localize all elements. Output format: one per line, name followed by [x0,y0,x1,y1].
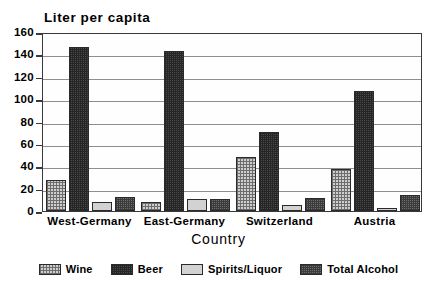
bar [92,202,112,211]
y-axis-tick-label: 140 [0,48,34,60]
y-axis-title: Liter per capita [44,10,150,25]
legend-item: Total Alcohol [300,263,398,275]
bar [210,199,230,211]
legend-label: Total Alcohol [327,263,398,275]
bar [236,157,256,211]
y-axis-tick-label: 100 [0,93,34,105]
legend-label: Spirits/Liquor [208,263,282,275]
x-axis-tick-label: Switzerland [232,215,327,227]
x-axis-tick-label: Austria [327,215,422,227]
bar [69,47,89,211]
bar [354,91,374,211]
bar [331,169,351,212]
bar [377,208,397,211]
y-axis-tick-label: 40 [0,160,34,172]
legend-item: Beer [111,263,163,275]
y-axis-tick-label: 20 [0,183,34,195]
bar [187,199,207,211]
bar-chart-figure: Liter per capita 020406080100120140160 W… [0,0,437,294]
legend-swatch-icon [300,264,322,275]
bar [282,205,302,211]
bar-group [138,34,233,211]
bar-group [233,34,328,211]
bar [259,132,279,211]
legend-swatch-icon [111,264,133,275]
legend-swatch-icon [39,264,61,275]
bar-series-layer [43,34,421,211]
x-axis-tick-label: East-Germany [137,215,232,227]
bar [164,51,184,211]
plot-area [42,33,422,212]
bar [46,180,66,211]
legend-item: Wine [39,263,93,275]
bar [400,195,420,211]
y-axis-tick-label: 60 [0,138,34,150]
chart-legend: WineBeerSpirits/LiquorTotal Alcohol [0,258,437,280]
legend-swatch-icon [181,264,203,275]
x-axis-tick-label: West-Germany [42,215,137,227]
y-axis-tick-label: 0 [0,205,34,217]
y-axis-tick-label: 160 [0,26,34,38]
bar [141,202,161,212]
y-axis-tick-label: 120 [0,71,34,83]
bar [115,197,135,211]
bar-group [328,34,423,211]
bar [305,198,325,211]
y-axis-tick-label: 80 [0,116,34,128]
bar-group [43,34,138,211]
legend-label: Beer [138,263,163,275]
x-axis-title: Country [0,231,437,247]
legend-item: Spirits/Liquor [181,263,282,275]
legend-label: Wine [66,263,93,275]
y-axis-tick-mark [36,212,42,214]
